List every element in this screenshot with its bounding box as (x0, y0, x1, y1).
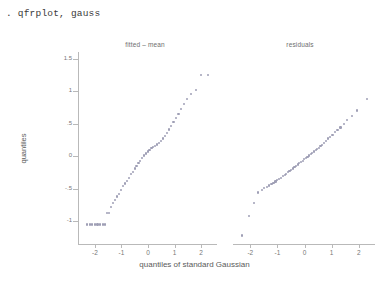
scatter-point (168, 128, 170, 130)
scatter-point (241, 234, 243, 236)
y-tick-mark (73, 91, 78, 92)
scatter-point (99, 223, 101, 225)
scatter-point (186, 98, 188, 100)
scatter-point (110, 206, 112, 208)
y-tick-mark (73, 221, 78, 222)
scatter-point (331, 134, 333, 136)
scatter-point (122, 185, 124, 187)
scatter-point (143, 154, 145, 156)
scatter-point (158, 142, 160, 144)
x-tick-label: -1 (111, 249, 131, 256)
scatter-point (261, 189, 263, 191)
scatter-point (190, 93, 192, 95)
x-tick-label: 2 (349, 249, 369, 256)
x-tick-label: 1 (322, 249, 342, 256)
x-tick-label: -2 (240, 249, 260, 256)
scatter-point (327, 137, 329, 139)
scatter-point (141, 157, 143, 159)
x-tick-mark (148, 244, 149, 248)
y-tick-mark (73, 156, 78, 157)
scatter-point (356, 109, 358, 111)
scatter-point (147, 150, 149, 152)
scatter-point (164, 135, 166, 137)
y-tick-label: -.5 (58, 185, 72, 191)
y-tick-label: 0 (58, 152, 72, 158)
x-tick-label: -2 (85, 249, 105, 256)
scatter-point (139, 160, 141, 162)
scatter-point (134, 167, 136, 169)
panel-title-residuals: residuals (245, 41, 355, 48)
scatter-point (145, 152, 147, 154)
scatter-point (343, 123, 345, 125)
scatter-point (336, 129, 338, 131)
scatter-point (104, 223, 106, 225)
scatter-point (124, 182, 126, 184)
y-axis-line (78, 52, 79, 244)
scatter-point (346, 119, 348, 121)
y-tick-label: 1 (58, 87, 72, 93)
x-tick-label: 2 (191, 249, 211, 256)
scatter-point (175, 117, 177, 119)
scatter-point (207, 74, 209, 76)
scatter-point (180, 108, 182, 110)
x-tick-label: 0 (295, 249, 315, 256)
scatter-point (170, 125, 172, 127)
scatter-point (120, 189, 122, 191)
scatter-point (351, 115, 353, 117)
scatter-point (248, 215, 250, 217)
y-tick-mark (73, 124, 78, 125)
x-tick-mark (175, 244, 176, 248)
x-tick-mark (277, 244, 278, 248)
console-command-line: . qfrplot, gauss (6, 8, 100, 19)
scatter-point (334, 131, 336, 133)
scatter-point (130, 173, 132, 175)
x-tick-label: -1 (267, 249, 287, 256)
graph-canvas: fitted – mean residuals quantiles quanti… (0, 26, 389, 290)
x-tick-mark (121, 244, 122, 248)
scatter-point (323, 142, 325, 144)
scatter-point (253, 202, 255, 204)
x-tick-mark (95, 244, 96, 248)
scatter-point (177, 113, 179, 115)
x-tick-label: 1 (165, 249, 185, 256)
scatter-point (162, 137, 164, 139)
scatter-point (366, 98, 368, 100)
y-tick-mark (73, 59, 78, 60)
scatter-point (112, 202, 114, 204)
y-tick-label: 1.5 (58, 55, 72, 61)
y-tick-label: .5 (58, 120, 72, 126)
scatter-point (132, 171, 134, 173)
scatter-point (160, 140, 162, 142)
scatter-point (108, 212, 110, 214)
y-tick-mark (73, 189, 78, 190)
y-tick-label: -1 (58, 217, 72, 223)
scatter-point (195, 89, 197, 91)
scatter-point (200, 74, 202, 76)
panel-title-fitted-mean: fitted – mean (90, 41, 200, 48)
scatter-point (172, 121, 174, 123)
x-tick-mark (305, 244, 306, 248)
scatter-point (86, 223, 88, 225)
x-tick-label: 0 (138, 249, 158, 256)
scatter-point (183, 103, 185, 105)
scatter-point (114, 199, 116, 201)
x-tick-mark (250, 244, 251, 248)
scatter-point (126, 180, 128, 182)
scatter-point (325, 140, 327, 142)
scatter-point (321, 144, 323, 146)
scatter-point (339, 126, 341, 128)
scatter-point (257, 191, 259, 193)
scatter-point (137, 162, 139, 164)
y-axis-title: quantiles (19, 104, 28, 194)
scatter-point (118, 193, 120, 195)
scatter-point (166, 132, 168, 134)
scatter-point (128, 177, 130, 179)
x-tick-mark (359, 244, 360, 248)
x-tick-mark (201, 244, 202, 248)
x-tick-mark (332, 244, 333, 248)
scatter-point (116, 195, 118, 197)
scatter-point (329, 136, 331, 138)
scatter-point (135, 165, 137, 167)
x-axis-title: quantiles of standard Gaussian (0, 260, 389, 269)
